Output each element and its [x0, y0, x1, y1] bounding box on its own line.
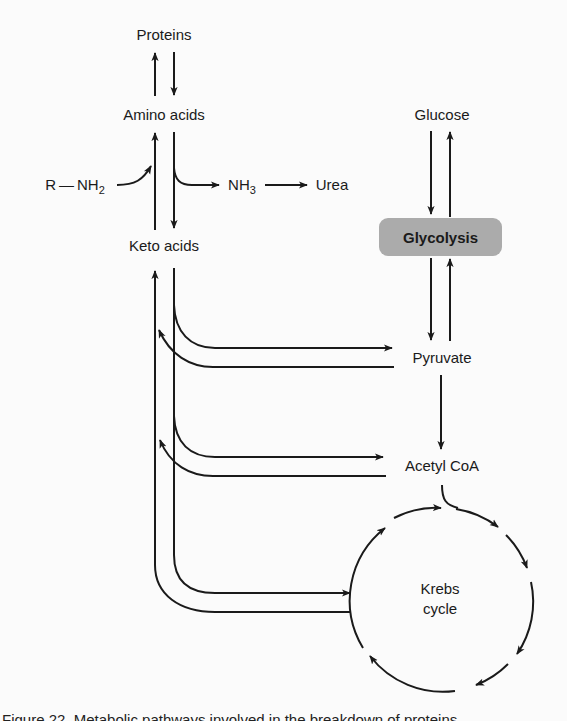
krebs-to-keto-line: [155, 565, 351, 612]
pathway-arrows: [0, 0, 567, 721]
keto-to-pyruvate-arrow: [174, 305, 392, 348]
node-proteins: Proteins: [136, 26, 191, 44]
node-krebs-line2: cycle: [423, 600, 457, 618]
rnh2-to-amino-arrow: [117, 166, 151, 185]
keto-to-krebs-arrow: [174, 555, 350, 593]
node-r-nh2: R — NH2: [45, 176, 105, 195]
nh3-label: NH: [228, 176, 250, 193]
node-nh3: NH3: [228, 176, 256, 195]
node-keto-acids: Keto acids: [129, 237, 199, 255]
r-nh2-subscript: 2: [99, 184, 105, 196]
amino-to-nh3-arrow: [174, 168, 219, 185]
node-urea: Urea: [316, 176, 349, 194]
r-nh2-label: R — NH: [45, 176, 99, 193]
metabolic-pathway-diagram: Proteins Amino acids R — NH2 NH3 Urea Ke…: [0, 0, 567, 721]
node-glucose: Glucose: [414, 106, 469, 124]
node-amino-acids: Amino acids: [123, 106, 205, 124]
node-acetyl-coa: Acetyl CoA: [405, 457, 479, 475]
node-glycolysis: Glycolysis: [379, 218, 502, 256]
acetylcoa-to-krebs-connector: [442, 485, 458, 508]
figure-caption: Figure 22. Metabolic pathways involved i…: [0, 711, 567, 721]
node-krebs-line1: Krebs: [420, 580, 459, 598]
keto-to-acetylcoa-arrow: [174, 416, 383, 457]
node-pyruvate: Pyruvate: [412, 349, 471, 367]
nh3-subscript: 3: [250, 184, 256, 196]
